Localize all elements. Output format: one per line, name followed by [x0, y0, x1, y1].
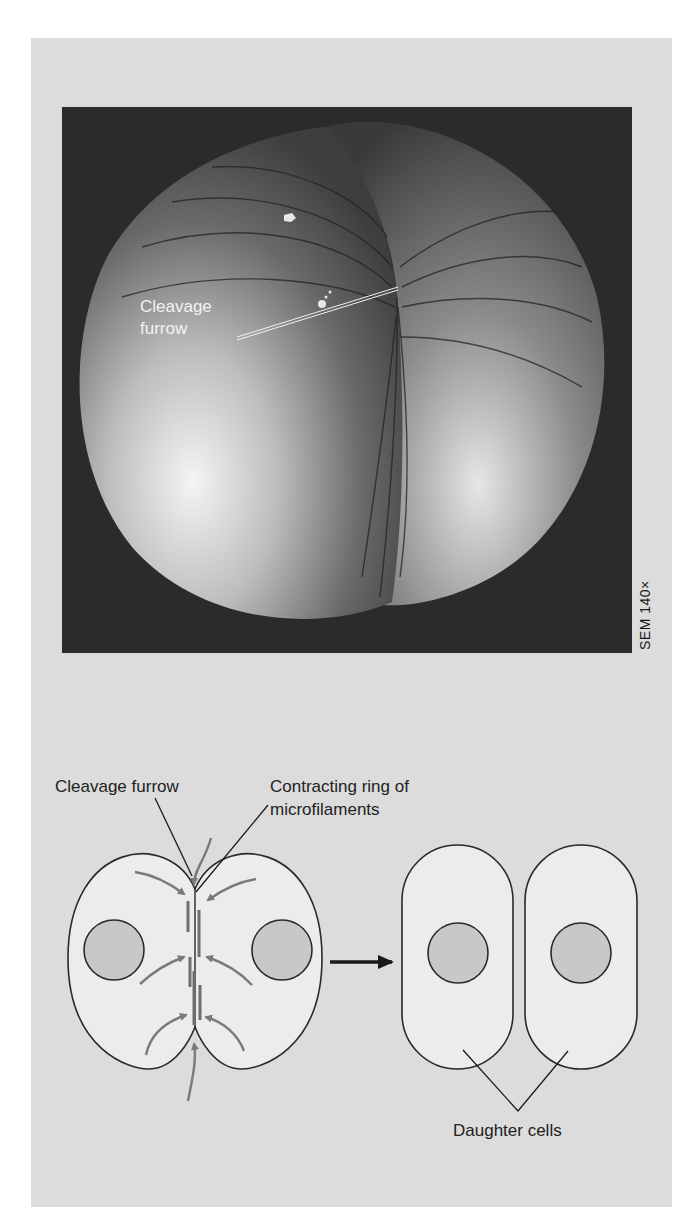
daughter-cells	[402, 845, 637, 1111]
daughter-cells-label: Daughter cells	[453, 1120, 562, 1141]
cleavage-furrow-label: Cleavage furrow	[55, 776, 179, 797]
nucleus-right	[252, 920, 312, 980]
nucleus-left	[84, 920, 144, 980]
cytokinesis-diagram	[0, 0, 693, 1227]
contracting-ring-label-line2: microfilaments	[270, 799, 380, 820]
dividing-cell	[68, 798, 322, 1101]
contracting-ring-label-line1: Contracting ring of	[270, 776, 409, 797]
